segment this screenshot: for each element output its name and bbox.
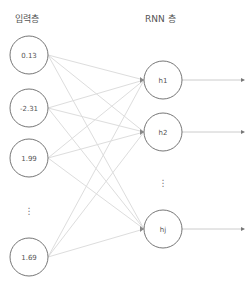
edge bbox=[48, 80, 144, 158]
node-label: 0.13 bbox=[21, 52, 37, 60]
edge bbox=[48, 55, 144, 229]
edge bbox=[48, 229, 144, 257]
edge bbox=[48, 80, 144, 108]
input-node: 1.69 bbox=[10, 238, 48, 276]
input-node: -2.31 bbox=[10, 89, 48, 127]
input-node: 1.99 bbox=[10, 139, 48, 177]
input-ellipsis: ⋮ bbox=[25, 206, 34, 216]
node-label: hj bbox=[160, 226, 166, 234]
input-node: 0.13 bbox=[10, 36, 48, 74]
nodes: 0.13-2.311.991.69h1h2hj⋮⋮ bbox=[10, 36, 182, 276]
node-label: 1.69 bbox=[21, 254, 37, 262]
node-label: -2.31 bbox=[20, 105, 38, 113]
edge bbox=[48, 132, 144, 158]
edge bbox=[48, 55, 144, 80]
node-label: 1.99 bbox=[21, 155, 37, 163]
network-diagram: 0.13-2.311.991.69h1h2hj⋮⋮ bbox=[0, 0, 252, 286]
hidden-node: h2 bbox=[144, 113, 182, 151]
edge bbox=[48, 132, 144, 257]
node-label: h1 bbox=[159, 77, 168, 85]
node-label: h2 bbox=[159, 129, 168, 137]
hidden-node: h1 bbox=[144, 61, 182, 99]
hidden-node: hj bbox=[144, 210, 182, 248]
output-arrows bbox=[182, 80, 244, 229]
connection-edges bbox=[48, 55, 144, 257]
hidden-ellipsis: ⋮ bbox=[159, 178, 168, 188]
